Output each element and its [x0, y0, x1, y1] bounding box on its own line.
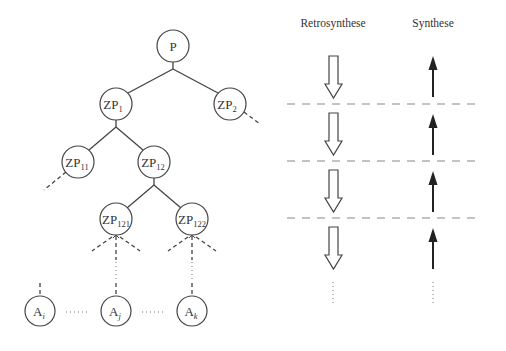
synthesis-arrows	[429, 56, 438, 269]
node-ZP122: ZP122	[176, 203, 208, 235]
retro-arrows	[325, 56, 342, 269]
node-ZP11: ZP11	[62, 146, 94, 178]
tree-edges	[89, 62, 218, 208]
node-Aj: Aj	[101, 296, 131, 326]
header-synthese: Synthese	[412, 17, 454, 30]
solid-up-arrow-icon	[429, 228, 438, 269]
node-Ak: Ak	[177, 296, 207, 326]
small-arrowheads	[113, 235, 195, 238]
hollow-down-arrow-icon	[325, 227, 342, 269]
node-ZP121: ZP121	[100, 203, 132, 235]
node-P: P	[157, 30, 189, 62]
solid-up-arrow-icon	[429, 56, 438, 97]
hollow-down-arrow-icon	[325, 56, 342, 98]
retrosynthesis-diagram: P ZP1 ZP2 ZP11 ZP12 ZP121 ZP122 Ai Aj Ak…	[0, 0, 506, 351]
level-separators	[287, 104, 482, 218]
node-ZP12: ZP12	[138, 146, 170, 178]
dashed-edges	[40, 112, 260, 295]
node-ZP2: ZP2	[214, 88, 246, 120]
solid-up-arrow-icon	[429, 171, 438, 212]
header-retrosynthese: Retrosynthese	[300, 17, 365, 30]
hollow-down-arrow-icon	[325, 170, 342, 212]
hollow-down-arrow-icon	[325, 113, 342, 155]
solid-up-arrow-icon	[429, 114, 438, 155]
node-ZP1: ZP1	[100, 88, 132, 120]
svg-text:P: P	[169, 39, 176, 54]
node-Ai: Ai	[25, 296, 55, 326]
